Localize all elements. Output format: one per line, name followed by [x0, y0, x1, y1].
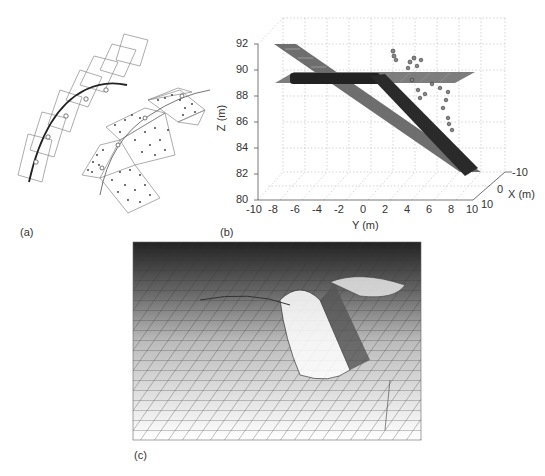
panel-label-c: (c)	[134, 449, 147, 461]
panel-c-wireframe-terrain	[0, 0, 545, 476]
